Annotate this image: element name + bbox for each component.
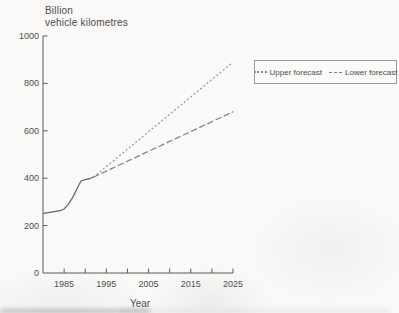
x-tick-label: 1985 [54,279,74,289]
x-tick-label: 1995 [96,279,116,289]
chart-canvas: 0200400600800100019851995200520152025 [0,0,399,313]
legend-label-lower: Lower forecast [345,68,397,77]
y-tick-label: 1000 [19,31,39,41]
upper-forecast-line [94,62,233,177]
actual-traffic-line [43,177,94,213]
chart-figure: Billion vehicle kilometres 0200400600800… [0,0,399,313]
y-axis-title-line1: Billion [45,5,128,17]
x-tick-label: 2005 [139,279,159,289]
y-axis-title: Billion vehicle kilometres [45,5,128,29]
dashed-line-icon [329,72,342,73]
legend-item-lower-forecast: Lower forecast [329,68,397,77]
x-axis-title: Year [110,298,170,309]
y-tick-label: 600 [24,126,39,136]
y-tick-label: 800 [24,78,39,88]
axes-lines [43,36,233,273]
legend-item-upper-forecast: Upper forecast [254,68,322,77]
scan-smudge [120,309,390,312]
y-tick-label: 400 [24,173,39,183]
y-tick-label: 0 [34,268,39,278]
dotted-line-icon [254,71,267,73]
x-tick-label: 2015 [181,279,201,289]
legend: Upper forecast Lower forecast [254,60,397,84]
legend-label-upper: Upper forecast [270,68,322,77]
x-tick-label: 2025 [223,279,243,289]
y-tick-label: 200 [24,221,39,231]
lower-forecast-line [94,112,233,177]
y-axis-title-line2: vehicle kilometres [45,17,128,29]
